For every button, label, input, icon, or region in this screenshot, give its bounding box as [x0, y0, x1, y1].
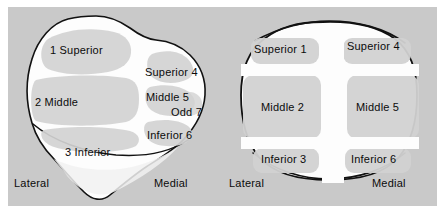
- facet-label-inferior-6: Inferior 6: [147, 129, 192, 141]
- patella-lateral-view: 1 Superior 2 Middle 3 Inferior Superior …: [8, 7, 223, 206]
- facet-label-middle-5: Middle 5: [356, 101, 399, 113]
- direction-label-lateral: Lateral: [14, 177, 49, 189]
- patella-transverse-ridge-lower-frontal: [241, 137, 419, 149]
- patella-frontal-view: Superior 1 Superior 4 Middle 2 Middle 5 …: [223, 7, 437, 206]
- diagram-panel: 1 Superior 2 Middle 3 Inferior Superior …: [8, 7, 437, 206]
- facet-label-middle-5: Middle 5: [146, 91, 189, 103]
- diagram-canvas: 1 Superior 2 Middle 3 Inferior Superior …: [0, 0, 444, 219]
- facet-label-superior-4: Superior 4: [145, 66, 198, 78]
- facet-label-middle-2: Middle 2: [261, 101, 304, 113]
- patella-median-ridge-frontal: [322, 31, 344, 183]
- facet-label-superior-1: Superior 1: [254, 43, 307, 55]
- facet-label-odd-7: Odd 7: [171, 106, 202, 118]
- direction-label-lateral: Lateral: [229, 177, 264, 189]
- direction-label-medial: Medial: [372, 177, 406, 189]
- facet-label-superior-4: Superior 4: [347, 40, 400, 52]
- patella-transverse-ridge-upper-frontal: [241, 64, 419, 76]
- facet-label-inferior-6: Inferior 6: [351, 153, 396, 165]
- facet-label-middle-2: 2 Middle: [35, 96, 78, 108]
- facet-label-inferior-3: Inferior 3: [261, 153, 306, 165]
- facet-label-superior-1: 1 Superior: [50, 44, 103, 56]
- facet-label-inferior-3: 3 Inferior: [65, 146, 110, 158]
- direction-label-medial: Medial: [154, 177, 188, 189]
